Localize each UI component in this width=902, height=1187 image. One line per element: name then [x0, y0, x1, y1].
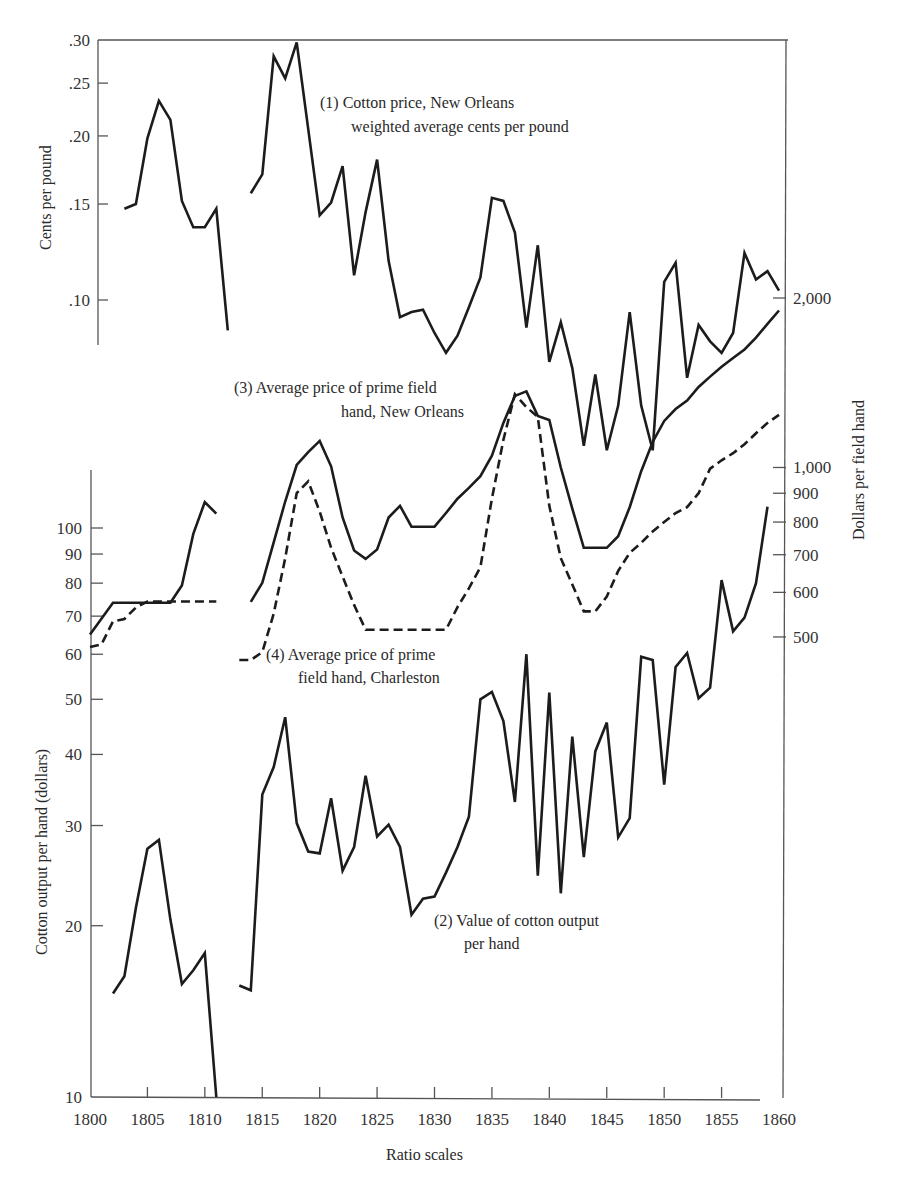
y-tick-label-output: 90: [65, 545, 82, 564]
y-tick-label-output: 100: [57, 519, 83, 538]
cotton-price-line: [124, 101, 227, 330]
y-tick-label-cents: .30: [69, 31, 90, 50]
axes: [91, 40, 788, 1100]
x-tick-label: 1805: [130, 1110, 164, 1129]
y-tick-label-dollars: 500: [793, 628, 819, 647]
x-tick-label: 1855: [705, 1110, 739, 1129]
x-tick-label: 1800: [73, 1110, 107, 1129]
x-tick-label: 1825: [360, 1110, 394, 1129]
x-tick-label: 1810: [188, 1110, 222, 1129]
annotation-output-per-hand-line2: per hand: [464, 935, 520, 953]
left-top-axis-title: Cents per pound: [37, 145, 55, 250]
chart: .30.25.20.15.101009080706050403020102,00…: [0, 0, 902, 1187]
tick-labels: .30.25.20.15.101009080706050403020102,00…: [57, 31, 832, 1129]
y-tick-label-dollars: 700: [793, 546, 819, 565]
x-tick-label: 1835: [475, 1110, 509, 1129]
x-tick-label: 1850: [647, 1110, 681, 1129]
annotation-output-per-hand-line1: (2) Value of cotton output: [434, 912, 600, 930]
annotation-price-charleston-line2: field hand, Charleston: [298, 669, 440, 686]
x-axis: [91, 1097, 760, 1100]
y-tick-label-dollars: 2,000: [793, 289, 831, 308]
tick-marks: [91, 83, 786, 1098]
y-tick-label-dollars: 1,000: [793, 458, 831, 477]
annotation-cotton-price-line1: (1) Cotton price, New Orleans: [320, 94, 514, 112]
left-bottom-axis-title: Cotton output per hand (dollars): [33, 749, 51, 955]
y-tick-label-cents: .15: [69, 195, 90, 214]
x-axis-title: Ratio scales: [386, 1146, 463, 1163]
right-axis-title: Dollars per field hand: [850, 400, 868, 540]
y-tick-label-cents: .25: [69, 74, 90, 93]
y-tick-label-dollars: 800: [793, 513, 819, 532]
y-tick-label-output: 20: [65, 917, 82, 936]
x-tick-label: 1845: [590, 1110, 624, 1129]
annotation-price-new-orleans-line1: (3) Average price of prime field: [234, 379, 437, 397]
y-tick-label-output: 70: [65, 607, 82, 626]
y-tick-label-cents: .10: [69, 291, 90, 310]
y-tick-label-dollars: 600: [793, 583, 819, 602]
y-tick-label-output: 80: [65, 574, 82, 593]
y-tick-label-dollars: 900: [793, 484, 819, 503]
x-tick-label: 1860: [762, 1110, 796, 1129]
output-per-hand-line: [113, 840, 216, 1097]
right-axis: [783, 40, 786, 1098]
x-tick-label: 1840: [532, 1110, 566, 1129]
x-tick-label: 1815: [245, 1110, 279, 1129]
y-tick-label-output: 60: [65, 645, 82, 664]
price-charleston-line: [239, 394, 779, 660]
annotation-cotton-price-line2: weighted average cents per pound: [351, 118, 569, 136]
y-tick-label-cents: .20: [69, 127, 90, 146]
price-new-orleans-line: [90, 502, 216, 634]
x-tick-label: 1830: [418, 1110, 452, 1129]
series-lines: [90, 42, 779, 1097]
price-new-orleans-line: [251, 311, 779, 602]
y-tick-label-output: 10: [65, 1088, 82, 1107]
annotation-price-new-orleans-line2: hand, New Orleans: [341, 403, 464, 420]
annotation-price-charleston-line1: (4) Average price of prime: [266, 646, 435, 664]
y-tick-label-output: 40: [65, 745, 82, 764]
y-tick-label-output: 50: [65, 690, 82, 709]
y-tick-label-output: 30: [65, 817, 82, 836]
x-tick-label: 1820: [303, 1110, 337, 1129]
